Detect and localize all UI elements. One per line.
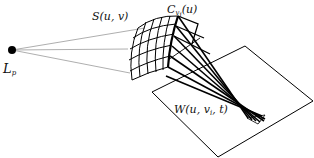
wavefront-label: W(u, vi, t) [174, 104, 228, 117]
light-source-point [8, 46, 16, 54]
curve-label: Cvi(u) [167, 4, 197, 19]
light-source-label: Lp [3, 62, 16, 77]
light-rays [12, 28, 145, 73]
surface-label: S(u, v) [92, 11, 128, 22]
diagram-canvas [0, 0, 314, 158]
surface-patch [129, 16, 178, 80]
